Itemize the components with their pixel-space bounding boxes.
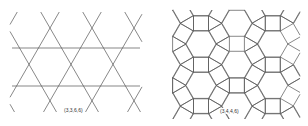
tile-edge [209,44,217,57]
tile-edge [288,78,300,85]
tile-edge [209,57,222,64]
tile-edge [258,44,266,57]
tile-edge [190,114,193,119]
tile-edge [257,86,265,99]
tile-edge [244,65,252,78]
tile-edge [209,31,217,44]
tile-edge [245,10,253,23]
diagonal-line [41,12,99,112]
tile-edge [216,36,229,44]
tile-edge [245,52,253,65]
tile-edge [181,57,194,65]
tile-edge [186,85,194,98]
tile-edge [221,24,229,37]
tile-edge [244,10,252,23]
tile-edge [281,114,284,119]
tile-edge [252,24,265,32]
tile-edge [245,78,258,86]
tile-edge [281,16,294,23]
tile-edge [252,16,265,24]
vertex-config-label-left: (3,3,6,6) [63,107,84,113]
diagonal-line [125,12,142,42]
tile-edge [280,57,293,65]
tile-edge [209,86,217,99]
tile-edge [209,72,217,85]
tile-edge [245,24,253,37]
tile-edge [245,85,258,93]
tile-edge [173,44,186,52]
tile-edge [209,10,212,16]
tile-edge [173,106,180,119]
diagonal-line [128,87,142,112]
tile-edge [209,114,212,119]
tile-edge [209,72,217,85]
tile-edge [186,86,194,99]
tile-edge [181,106,194,114]
tile-edge [280,72,288,85]
tile-edge [186,31,194,44]
tile-edge [209,114,212,119]
tile-edge [216,44,229,52]
tile-edge [257,44,265,57]
tile-edge [245,93,253,106]
tile-edge [252,106,265,114]
tile-edge [293,65,300,77]
tile-edge [294,65,300,76]
tile-edge [173,93,181,106]
tile-edge [280,85,288,98]
tile-edge [245,44,258,52]
tile-edge [222,52,230,65]
diagonal-line [83,12,141,112]
tile-edge [244,106,251,119]
diagonal-line [86,14,142,112]
tile-edge [252,98,265,106]
tile-edge [257,31,265,44]
tile-edge [173,52,181,65]
tile-edge [222,23,230,36]
tile-edge [258,72,266,85]
tile-edge [209,16,222,23]
tile-edge [245,37,258,45]
tile-edge [252,57,265,65]
tile-edge [190,10,193,16]
tile-edge [293,11,300,23]
tile-edge [173,65,181,78]
tile-edge [181,24,194,32]
tile-edge [186,31,194,44]
tile-edge [216,78,229,86]
tile-edge [222,65,230,78]
tile-edge [186,44,194,57]
tile-edge [258,85,266,98]
tile-edge [221,93,229,106]
tile-edge [173,24,181,37]
tile-edge [181,65,194,73]
tile-edge [186,72,194,85]
tile-edge [288,44,300,51]
tile-edge [173,10,181,23]
tile-edge [280,98,293,106]
tile-edge [209,23,222,31]
tile-edge [173,78,186,86]
tile-edge [293,53,300,65]
tile-edge [173,93,181,106]
tile-edge [288,37,300,44]
tile-edge [262,10,265,16]
tile-edge [221,10,229,23]
tile-edge [257,72,265,85]
tile-edge [262,114,265,119]
tile-edge [280,31,288,44]
tile-edge [173,65,181,78]
tile-edge [181,98,194,106]
tile-edge [209,99,222,107]
tile-edge [173,52,181,65]
tile-edge [221,65,229,78]
tile-edge [245,65,253,78]
tile-edge [280,24,293,32]
tile-edge [293,24,300,36]
tile-edge [181,16,194,24]
tile-edge [173,23,181,36]
tile-edge [186,72,194,85]
tile-edge [173,106,180,119]
diagonal-line [10,12,59,97]
tile-edge [262,10,265,16]
